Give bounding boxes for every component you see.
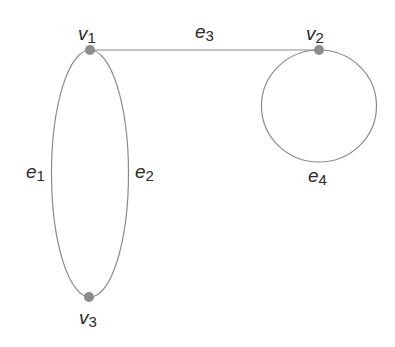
vertex-v1 [85, 45, 95, 55]
edge-e1 [51, 50, 90, 297]
graph-diagram: v1 v2 v3 e1 e2 e3 e4 [0, 0, 395, 347]
label-e4: e4 [308, 165, 327, 188]
vertex-v2 [314, 45, 324, 55]
label-e1: e1 [26, 161, 45, 184]
vertex-v3 [84, 292, 94, 302]
label-e2: e2 [135, 161, 154, 184]
edge-e2 [90, 50, 129, 297]
label-v3: v3 [79, 307, 97, 330]
label-v1: v1 [78, 23, 96, 46]
label-v2: v2 [306, 23, 324, 46]
edge-e4-loop [262, 50, 377, 162]
label-e3: e3 [195, 21, 214, 44]
